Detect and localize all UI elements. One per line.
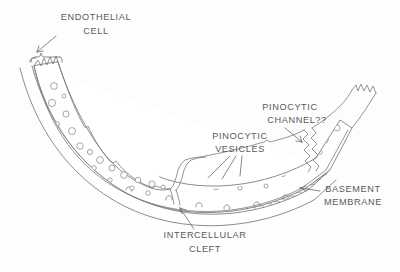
leader-pinocytic-channel [285, 128, 302, 142]
figure-canvas: ENDOTHELIAL CELL PINOCYTIC CHANNEL?? PIN… [0, 0, 400, 272]
label-pinocytic-channel-line1: PINOCYTIC [262, 102, 317, 112]
label-pinocytic-channel-line2: CHANNEL?? [267, 115, 327, 125]
label-pinocytic-vesicles-line1: PINOCYTIC [212, 131, 267, 141]
label-endothelial-cell-line2: CELL [83, 26, 108, 36]
label-basement-membrane-line1: BASEMENT [325, 184, 380, 194]
label-pinocytic-channel: PINOCYTIC CHANNEL?? [262, 102, 326, 125]
label-intercellular-cleft-line1: INTERCELLULAR [164, 230, 247, 240]
label-endothelial-cell-line1: ENDOTHELIAL [61, 12, 131, 22]
right-torn-edge [352, 84, 376, 128]
label-pinocytic-vesicles-line2: VESICLES [215, 144, 265, 154]
label-basement-membrane: BASEMENT MEMBRANE [324, 184, 382, 207]
label-intercellular-cleft: INTERCELLULAR CLEFT [164, 230, 247, 254]
label-endothelial-cell: ENDOTHELIAL CELL [61, 12, 131, 36]
label-basement-membrane-line2: MEMBRANE [324, 197, 382, 207]
leader-endothelial-cell [30, 36, 62, 62]
label-intercellular-cleft-line2: CLEFT [189, 244, 221, 254]
